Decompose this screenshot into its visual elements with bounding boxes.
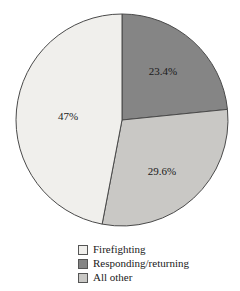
legend-label-firefighting: Firefighting: [93, 243, 146, 256]
legend-label-all-other: All other: [93, 271, 132, 284]
legend-label-responding-returning: Responding/returning: [93, 257, 189, 270]
chart-legend: Firefighting Responding/returning All ot…: [78, 243, 238, 285]
pie-slices: [16, 14, 228, 226]
pie-label-all-other: 29.6%: [148, 165, 176, 177]
pie-chart: 23.4% 29.6% 47% Firefighting Responding/…: [0, 0, 240, 291]
legend-swatch-firefighting: [78, 245, 88, 255]
legend-item-all-other[interactable]: All other: [78, 271, 238, 284]
pie-label-firefighting: 47%: [58, 110, 78, 122]
legend-item-firefighting[interactable]: Firefighting: [78, 243, 238, 256]
pie-chart-svg: 23.4% 29.6% 47%: [0, 0, 240, 245]
pie-label-responding-returning: 23.4%: [149, 65, 177, 77]
legend-swatch-all-other: [78, 273, 88, 283]
legend-swatch-responding-returning: [78, 259, 88, 269]
legend-item-responding-returning[interactable]: Responding/returning: [78, 257, 238, 270]
